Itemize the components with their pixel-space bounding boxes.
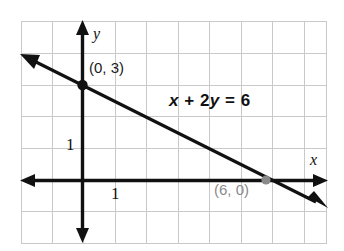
equation-constant: 6 xyxy=(241,91,251,110)
equation-label: x + 2y = 6 xyxy=(169,92,251,109)
point-marker-y-intercept xyxy=(77,80,87,90)
y-axis-label: y xyxy=(93,26,100,42)
equation-coefficient: 2 xyxy=(200,91,210,110)
point-marker-x-intercept xyxy=(261,175,270,184)
y-intercept-label: (0, 3) xyxy=(89,60,124,75)
x-intercept-label: (6, 0) xyxy=(214,182,249,197)
unit-tick-label-horizontal: 1 xyxy=(111,185,120,202)
graph-figure: y x (0, 3) (6, 0) x + 2y = 6 1 1 xyxy=(0,0,344,251)
coordinate-plane xyxy=(0,0,344,251)
x-axis-label: x xyxy=(310,152,317,168)
equation-term-y: y xyxy=(210,91,220,110)
equation-operator-equals: = xyxy=(225,91,235,110)
unit-tick-label-vertical: 1 xyxy=(66,136,75,153)
equation-operator-plus: + xyxy=(184,91,194,110)
equation-term-x: x xyxy=(169,91,179,110)
